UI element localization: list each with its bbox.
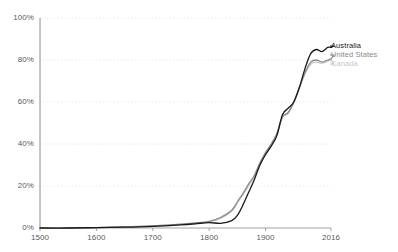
x-tick-label: 1800 (189, 233, 229, 242)
x-tick-marks (40, 228, 331, 231)
legend-label-canada: Canada (331, 59, 358, 68)
legend-item-canada[interactable]: Canada (331, 59, 397, 68)
series-line-united-states (40, 59, 331, 228)
chart-canvas (0, 0, 398, 252)
x-tick-label: 1700 (133, 233, 173, 242)
axis-spines (40, 18, 331, 228)
series-line-canada (40, 60, 331, 228)
series-line-australia (40, 47, 331, 228)
legend-item-united-states[interactable]: United States (331, 50, 397, 59)
chart-legend: Australia United States Canada (331, 41, 397, 68)
line-chart: 0%20%40%60%80%100% 150016001700180019002… (0, 0, 398, 252)
y-tick-label: 80% (0, 55, 34, 64)
y-tick-label: 40% (0, 139, 34, 148)
series-lines (40, 47, 331, 228)
legend-item-australia[interactable]: Australia (331, 41, 397, 50)
x-tick-label: 1600 (76, 233, 116, 242)
y-tick-label: 60% (0, 97, 34, 106)
y-tick-label: 100% (0, 13, 34, 22)
x-tick-label: 1900 (246, 233, 286, 242)
x-tick-label: 1500 (20, 233, 60, 242)
legend-label-australia: Australia (331, 41, 361, 50)
legend-label-united-states: United States (331, 50, 377, 59)
y-tick-label: 20% (0, 181, 34, 190)
x-tick-label: 2016 (311, 233, 351, 242)
y-tick-label: 0% (0, 223, 34, 232)
gridlines (40, 18, 331, 186)
